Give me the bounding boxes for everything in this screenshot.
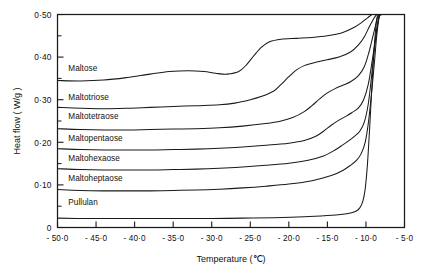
dsc-thermogram-figure: - 50·0- 45·0- 40·0- 35·0- 30·0- 25·0- 20… xyxy=(0,0,422,272)
series-label-maltotetraose: Maltotetraose xyxy=(68,112,119,121)
y-tick-label-5: 0·50 xyxy=(34,10,51,20)
axes-layer: - 50·0- 45·0- 40·0- 35·0- 30·0- 25·0- 20… xyxy=(34,10,413,243)
series-label-maltopentaose: Maltopentaose xyxy=(68,134,123,143)
y-tick-label-3: 0·30 xyxy=(34,95,51,105)
x-tick-label-9: - 5·0 xyxy=(396,234,414,243)
chart-svg: - 50·0- 45·0- 40·0- 35·0- 30·0- 25·0- 20… xyxy=(0,0,422,272)
x-tick-label-2: - 40·0 xyxy=(124,234,146,243)
y-tick-label-1: 0·10 xyxy=(34,180,51,190)
x-tick-label-7: - 15·0 xyxy=(316,234,338,243)
x-tick-label-0: - 50·0 xyxy=(47,234,69,243)
series-labels-layer: MaltoseMaltotrioseMaltotetraoseMaltopent… xyxy=(68,64,123,208)
series-label-maltotriose: Maltotriose xyxy=(68,93,109,102)
x-axis-title: Temperature (℃) xyxy=(196,254,265,264)
x-tick-label-6: - 20·0 xyxy=(278,234,300,243)
x-tick-label-3: - 35·0 xyxy=(162,234,184,243)
x-tick-label-4: - 30·0 xyxy=(201,234,223,243)
y-tick-label-0: 0 xyxy=(47,223,52,233)
series-label-pullulan: Pullulan xyxy=(68,198,98,207)
series-label-maltoheptaose: Maltoheptaose xyxy=(68,174,123,183)
x-tick-label-5: - 25·0 xyxy=(239,234,261,243)
curve-maltoheptaose xyxy=(58,14,383,191)
x-tick-label-1: - 45·0 xyxy=(85,234,107,243)
y-axis-title: Heat flow ( W/g ) xyxy=(12,87,22,154)
series-label-maltohexaose: Maltohexaose xyxy=(68,154,120,163)
curve-maltose xyxy=(58,14,379,81)
y-tick-label-2: 0·20 xyxy=(34,138,51,148)
series-label-maltose: Maltose xyxy=(68,64,97,73)
y-tick-label-4: 0·40 xyxy=(34,52,51,62)
x-tick-label-8: - 10·0 xyxy=(355,234,377,243)
